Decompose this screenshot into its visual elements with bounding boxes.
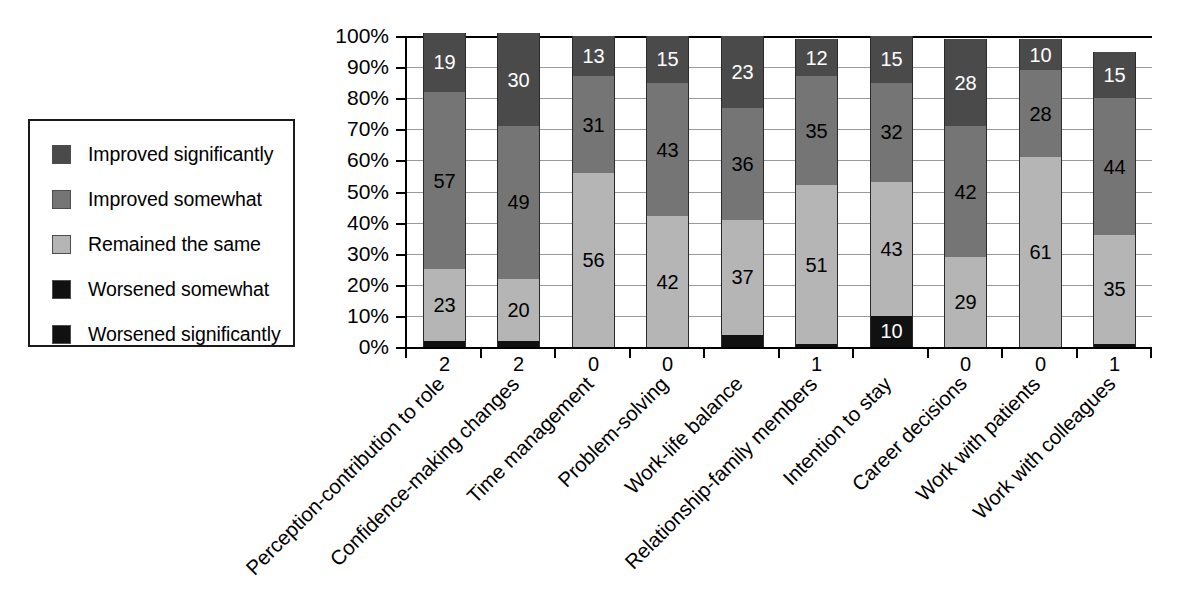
y-axis-tick-label: 80% bbox=[319, 87, 389, 108]
bar-4[interactable]: 4243150 bbox=[646, 36, 689, 347]
bar-segment: 49 bbox=[497, 126, 540, 278]
y-axis-tick-label: 60% bbox=[319, 149, 389, 170]
bar-segment-value: 51 bbox=[796, 255, 837, 275]
stacked-bar-chart: 100%90%80%70%60%50%40%30%20%10%0% 223571… bbox=[0, 0, 1179, 615]
bar-segment bbox=[721, 335, 764, 347]
x-axis-category-label: Time management bbox=[462, 372, 598, 508]
bar-segment: 29 bbox=[944, 257, 987, 347]
bar-segment-value: 28 bbox=[945, 73, 986, 93]
x-axis-category-label: Work with colleagues bbox=[968, 372, 1120, 524]
bar-segment-value: 42 bbox=[945, 182, 986, 202]
bar-6[interactable]: 1513512 bbox=[795, 39, 838, 347]
bar-segment-value: 35 bbox=[796, 121, 837, 141]
bar-segment-value: 43 bbox=[871, 239, 912, 259]
bar-7[interactable]: 10433215 bbox=[870, 36, 913, 347]
y-axis-tick-label: 90% bbox=[319, 56, 389, 77]
bar-segment: 23 bbox=[721, 36, 764, 108]
bar-segment: 23 bbox=[423, 269, 466, 341]
bar-segment: 10 bbox=[1019, 39, 1062, 70]
bar-segment: 1 bbox=[1093, 344, 1136, 347]
bar-segment-value: 12 bbox=[796, 48, 837, 68]
bar-segment: 42 bbox=[646, 216, 689, 347]
bar-segment-value: 28 bbox=[1020, 104, 1061, 124]
y-axis-tick-label: 70% bbox=[319, 118, 389, 139]
y-axis-tick-label: 40% bbox=[319, 212, 389, 233]
bar-segment: 30 bbox=[497, 33, 540, 126]
y-axis-tick-label: 30% bbox=[319, 243, 389, 264]
bar-9[interactable]: 6128100 bbox=[1019, 39, 1062, 347]
y-axis-tick-mark bbox=[396, 129, 405, 131]
y-axis-tick-mark bbox=[396, 285, 405, 287]
bar-segment-value: 29 bbox=[945, 292, 986, 312]
bar-segment-value: 2 bbox=[498, 354, 539, 374]
bar-segment: 28 bbox=[944, 39, 987, 126]
bar-1[interactable]: 2235719 bbox=[423, 33, 466, 347]
bar-segment-value: 0 bbox=[944, 354, 987, 374]
y-axis-tick-mark bbox=[396, 347, 405, 349]
bar-segment-value: 0 bbox=[1019, 354, 1062, 374]
x-axis-tick-mark bbox=[852, 347, 854, 358]
x-axis-tick-mark bbox=[1076, 347, 1078, 358]
bar-segment-value: 32 bbox=[871, 122, 912, 142]
y-axis-tick-mark bbox=[396, 223, 405, 225]
bar-segment-value: 15 bbox=[871, 49, 912, 69]
y-axis-tick-mark bbox=[396, 192, 405, 194]
bar-segment: 35 bbox=[1093, 235, 1136, 344]
bar-segment: 19 bbox=[423, 33, 466, 92]
bar-segment: 10 bbox=[870, 316, 913, 347]
y-axis-tick-label: 10% bbox=[319, 305, 389, 326]
bar-segment-value: 35 bbox=[1094, 279, 1135, 299]
bar-segment: 1 bbox=[795, 344, 838, 347]
bar-segment: 35 bbox=[795, 76, 838, 185]
x-axis-tick-mark bbox=[927, 347, 929, 358]
bar-2[interactable]: 2204930 bbox=[497, 33, 540, 347]
x-axis-tick-mark bbox=[1001, 347, 1003, 358]
x-axis-tick-mark bbox=[703, 347, 705, 358]
bar-segment: 2 bbox=[497, 341, 540, 347]
bar-segment-value: 43 bbox=[647, 140, 688, 160]
x-axis-tick-mark bbox=[480, 347, 482, 358]
bar-segment-value: 31 bbox=[573, 115, 614, 135]
x-axis-category-label: Work with patients bbox=[911, 372, 1045, 506]
y-axis-tick-mark bbox=[396, 254, 405, 256]
bar-segment-value: 0 bbox=[646, 354, 689, 374]
y-axis-tick-mark bbox=[396, 98, 405, 100]
bar-segment: 12 bbox=[795, 39, 838, 76]
bar-8[interactable]: 2942280 bbox=[944, 39, 987, 347]
bar-segment-value: 49 bbox=[498, 192, 539, 212]
bar-segment-value: 20 bbox=[498, 300, 539, 320]
bar-segment: 37 bbox=[721, 220, 764, 335]
bar-segment: 61 bbox=[1019, 157, 1062, 347]
bar-10[interactable]: 1354415 bbox=[1093, 52, 1136, 347]
bar-segment-value: 36 bbox=[722, 154, 763, 174]
bar-segment: 15 bbox=[646, 36, 689, 83]
bar-segment-value: 57 bbox=[424, 171, 465, 191]
y-axis-tick-mark bbox=[396, 316, 405, 318]
bar-5[interactable]: 373623 bbox=[721, 36, 764, 347]
bar-segment: 43 bbox=[870, 182, 913, 316]
bar-segment-value: 1 bbox=[1094, 354, 1135, 374]
x-axis-tick-mark bbox=[405, 347, 407, 358]
bar-segment-value: 37 bbox=[722, 267, 763, 287]
bar-segment-value: 19 bbox=[424, 52, 465, 72]
x-axis-tick-mark bbox=[554, 347, 556, 358]
x-axis-tick-mark bbox=[629, 347, 631, 358]
bar-segment: 42 bbox=[944, 126, 987, 257]
bar-segment-value: 30 bbox=[498, 70, 539, 90]
bar-segment: 15 bbox=[870, 36, 913, 83]
y-axis-tick-label: 20% bbox=[319, 274, 389, 295]
bar-segment-value: 1 bbox=[796, 354, 837, 374]
bar-segment: 2 bbox=[423, 341, 466, 347]
bar-segment-value: 44 bbox=[1094, 157, 1135, 177]
plot-area: 2235719220493056311304243150373623151351… bbox=[405, 36, 1152, 349]
y-axis-tick-label: 50% bbox=[319, 181, 389, 202]
bar-segment: 57 bbox=[423, 92, 466, 269]
bar-3[interactable]: 5631130 bbox=[572, 36, 615, 347]
bar-segment-value: 61 bbox=[1020, 242, 1061, 262]
bar-segment-value: 23 bbox=[424, 295, 465, 315]
bar-segment-value: 15 bbox=[1094, 65, 1135, 85]
y-axis-tick-mark bbox=[396, 160, 405, 162]
bar-segment: 44 bbox=[1093, 98, 1136, 235]
bar-segment: 36 bbox=[721, 108, 764, 220]
bar-segment: 31 bbox=[572, 76, 615, 172]
